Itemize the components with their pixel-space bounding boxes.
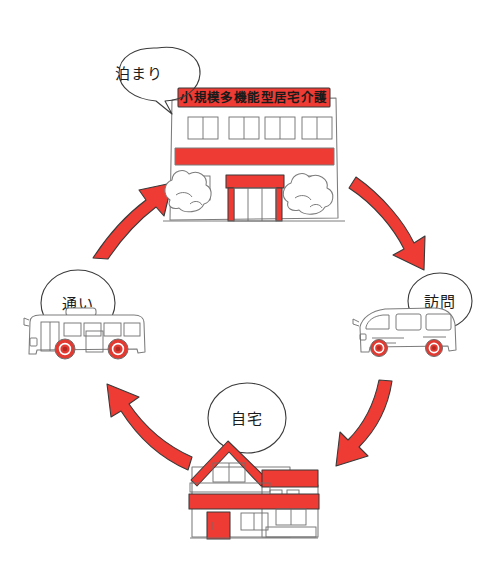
care-cycle-diagram: 小規模多機能型居宅介護 泊まり 訪問 — [0, 0, 494, 562]
van-wheel-rear — [426, 340, 443, 357]
bus-wheel-front — [55, 339, 75, 359]
van-wheel-front — [371, 340, 388, 357]
bubble-home-label: 自宅 — [231, 410, 263, 428]
facility-entrance-canopy — [226, 175, 284, 188]
house-mid-band — [189, 494, 319, 509]
facility-sign-label: 小規模多機能型居宅介護 — [179, 90, 327, 105]
house-door — [207, 512, 230, 539]
facility-mid-band — [175, 148, 334, 165]
bus-wheel-rear — [108, 339, 128, 359]
bubble-stay-label: 泊まり — [115, 65, 164, 83]
facility-building-icon — [163, 88, 345, 221]
